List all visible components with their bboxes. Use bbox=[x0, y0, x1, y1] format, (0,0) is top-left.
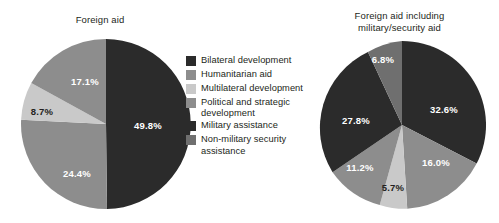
chart-foreign-aid: Foreign aid 49.8% 24.4% 8.7% 17.1% bbox=[0, 0, 200, 223]
pie-left-label-humanitarian: 24.4% bbox=[63, 168, 91, 179]
legend-label: Non-military security assistance bbox=[201, 134, 304, 156]
legend-swatch-icon bbox=[186, 56, 196, 66]
legend-item-political-and-strategic-development: Political and strategic development bbox=[186, 97, 304, 119]
legend-label: Humanitarian aid bbox=[201, 69, 272, 80]
legend-label: Bilateral development bbox=[201, 55, 291, 66]
legend-item-military-assistance: Military assistance bbox=[186, 120, 304, 133]
pie-right-label-bilateral: 32.6% bbox=[430, 104, 458, 115]
pie-right-label-political: 11.2% bbox=[346, 162, 374, 173]
pie-left: 49.8% 24.4% 8.7% 17.1% bbox=[20, 38, 192, 210]
pie-right-label-humanitarian: 16.0% bbox=[422, 157, 450, 168]
pie-left-label-multilateral: 8.7% bbox=[31, 106, 54, 117]
pie-right-label-multilateral: 5.7% bbox=[382, 182, 405, 193]
legend-item-non-military-security-assistance: Non-military security assistance bbox=[186, 134, 304, 156]
pie-chart-figure: Foreign aid 49.8% 24.4% 8.7% 17.1% Forei… bbox=[0, 0, 499, 223]
pie-right-label-military: 27.8% bbox=[342, 115, 370, 126]
pie-right: 32.6% 16.0% 5.7% 11.2% 27.8% 6.8% bbox=[317, 40, 487, 210]
legend-item-multilateral-development: Multilateral development bbox=[186, 83, 304, 96]
pie-left-label-political: 17.1% bbox=[71, 76, 99, 87]
legend-label: Political and strategic development bbox=[201, 97, 304, 119]
chart-left-title: Foreign aid bbox=[0, 14, 200, 26]
chart-right-title-line2: military/security aid bbox=[300, 22, 499, 34]
chart-foreign-aid-including-military: Foreign aid including military/security … bbox=[300, 0, 499, 223]
legend-label: Military assistance bbox=[201, 120, 278, 131]
chart-legend: Bilateral development Humanitarian aid M… bbox=[186, 55, 304, 158]
pie-left-label-bilateral: 49.8% bbox=[134, 120, 162, 131]
legend-swatch-icon bbox=[186, 98, 196, 108]
pie-left-slice-humanitarian bbox=[21, 120, 107, 209]
pie-right-label-nonmilitary: 6.8% bbox=[372, 54, 395, 65]
legend-swatch-icon bbox=[186, 121, 196, 131]
legend-swatch-icon bbox=[186, 84, 196, 94]
chart-right-title: Foreign aid including military/security … bbox=[300, 10, 499, 33]
chart-right-title-line1: Foreign aid including bbox=[300, 10, 499, 22]
legend-swatch-icon bbox=[186, 70, 196, 80]
legend-item-humanitarian-aid: Humanitarian aid bbox=[186, 69, 304, 82]
legend-label: Multilateral development bbox=[201, 83, 303, 94]
legend-item-bilateral-development: Bilateral development bbox=[186, 55, 304, 68]
legend-swatch-icon bbox=[186, 135, 196, 145]
